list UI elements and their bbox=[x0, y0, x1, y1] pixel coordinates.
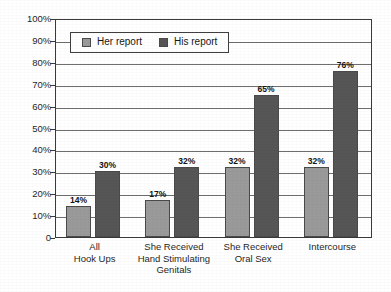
y-axis-tick-label: 10% bbox=[5, 211, 51, 221]
y-axis-tick-label: 80% bbox=[5, 58, 51, 68]
legend-entry-his-report: His report bbox=[159, 37, 217, 47]
bar-value-label: 17% bbox=[149, 190, 166, 199]
bar-value-label: 30% bbox=[99, 161, 116, 170]
y-axis-tick-mark bbox=[50, 238, 55, 239]
bar-value-label: 32% bbox=[308, 157, 325, 166]
bar-value-label: 65% bbox=[257, 85, 274, 94]
bar-value-label: 32% bbox=[178, 157, 195, 166]
bar-his-report[interactable]: 32% bbox=[174, 167, 199, 237]
bar-group: 32%76% bbox=[294, 20, 373, 237]
y-axis-tick-label: 50% bbox=[5, 124, 51, 134]
bar-her-report[interactable]: 17% bbox=[145, 200, 170, 237]
x-axis-category-label: Intercourse bbox=[285, 241, 380, 253]
y-axis-tick-label: 60% bbox=[5, 102, 51, 112]
legend-swatch-icon-his-report bbox=[159, 38, 168, 47]
x-axis-category-line: Intercourse bbox=[285, 241, 380, 253]
y-axis-tick-label: 30% bbox=[5, 167, 51, 177]
plot-area: 14%30%17%32%32%65%32%76% Her report His … bbox=[55, 19, 372, 238]
bar-value-label: 76% bbox=[337, 61, 354, 70]
y-axis-tick-label: 0 bbox=[5, 233, 51, 243]
chart-legend: Her report His report bbox=[70, 32, 229, 53]
y-axis-tick-label: 40% bbox=[5, 145, 51, 155]
bar-his-report[interactable]: 76% bbox=[333, 71, 358, 237]
legend-label-her-report: Her report bbox=[97, 37, 142, 47]
y-axis-tick-label: 90% bbox=[5, 36, 51, 46]
x-axis-category-line: Genitals bbox=[126, 264, 221, 276]
bar-her-report[interactable]: 32% bbox=[225, 167, 250, 237]
legend-label-his-report: His report bbox=[174, 37, 217, 47]
bar-her-report[interactable]: 32% bbox=[304, 167, 329, 237]
bar-her-report[interactable]: 14% bbox=[66, 206, 91, 237]
legend-entry-her-report: Her report bbox=[82, 37, 142, 47]
y-axis-tick-label: 100% bbox=[5, 14, 51, 24]
bar-his-report[interactable]: 65% bbox=[254, 95, 279, 237]
legend-swatch-icon-her-report bbox=[82, 38, 91, 47]
x-axis-category-line: Oral Sex bbox=[206, 253, 301, 265]
bar-value-label: 32% bbox=[228, 157, 245, 166]
y-axis-tick-label: 20% bbox=[5, 189, 51, 199]
bar-value-label: 14% bbox=[70, 196, 87, 205]
y-axis-tick-label: 70% bbox=[5, 80, 51, 90]
bar-his-report[interactable]: 30% bbox=[95, 171, 120, 237]
bar-chart-figure: 010%20%30%40%50%60%70%80%90%100% 14%30%1… bbox=[0, 0, 391, 292]
